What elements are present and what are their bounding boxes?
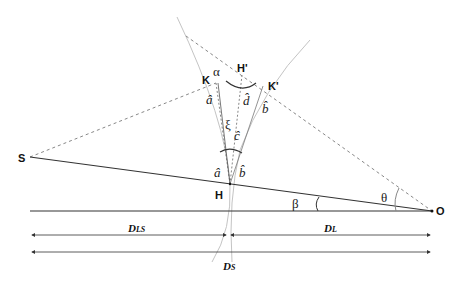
arc-c-hat	[220, 149, 242, 153]
label-H: H	[215, 189, 223, 201]
label-DL: DL	[323, 222, 337, 234]
label-DS: DS	[222, 260, 236, 272]
label-a-hat-bottom: â	[214, 165, 221, 180]
dashed-S-to-K	[30, 83, 216, 157]
lensing-geometry-diagram: S O H K K' H' α â d̂ b̂ ξ ĉ â b̂ β θ DLS…	[0, 0, 456, 281]
label-DLS: DLS	[127, 222, 146, 234]
label-b-hat-bottom: b̂	[239, 165, 246, 180]
label-K-prime: K'	[268, 80, 279, 92]
arc-beta	[316, 197, 319, 211]
label-S: S	[18, 152, 25, 164]
left-curve	[177, 17, 230, 262]
point-O	[431, 210, 434, 213]
point-H	[229, 183, 231, 185]
label-c-hat: ĉ	[234, 128, 240, 143]
label-theta: θ	[381, 190, 387, 205]
arc-theta	[395, 188, 399, 211]
label-H-prime: H'	[237, 62, 248, 74]
label-alpha: α	[213, 64, 220, 79]
label-K: K	[202, 74, 210, 86]
label-xi: ξ	[225, 117, 231, 132]
label-beta: β	[292, 196, 299, 211]
label-b-hat-top: b̂	[262, 101, 269, 116]
label-O: O	[436, 205, 445, 217]
label-d-hat: d̂	[243, 93, 250, 108]
label-a-hat-top: â	[206, 92, 213, 107]
